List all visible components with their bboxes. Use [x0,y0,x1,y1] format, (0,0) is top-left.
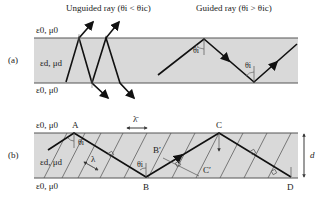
bottom-medium-a: ε0, μ0 [36,86,58,95]
theta-a1: θi [193,47,199,55]
guided-ray-title: Guided ray (θi > θic) [196,4,272,13]
core-medium-b: εd, μd [40,158,62,167]
thickness-d: d [310,151,315,160]
panel-b-label: (b) [8,151,19,160]
top-medium-b: ε0, μ0 [36,121,58,130]
slab-a [34,38,298,83]
lambda-bar: λ̄ [133,115,137,124]
top-medium-a: ε0, μ0 [36,26,58,35]
slab-b [34,133,298,178]
point-d: D [287,183,294,192]
lambda: λ [91,155,95,164]
point-c-prime: C′ [203,166,211,175]
theta-b2: θi [137,161,143,169]
point-b: B [143,183,149,192]
panel-a-label: (a) [8,56,18,65]
core-medium-a: εd, μd [40,59,62,68]
point-c: C [216,121,222,130]
point-b-prime: B′ [153,146,161,155]
theta-b1: θi [78,139,84,147]
theta-a2: θi [245,62,251,70]
point-a: A [72,121,79,130]
unguided-ray-title: Unguided ray (θi < θic) [66,4,151,13]
bottom-medium-b: ε0, μ0 [36,182,58,191]
